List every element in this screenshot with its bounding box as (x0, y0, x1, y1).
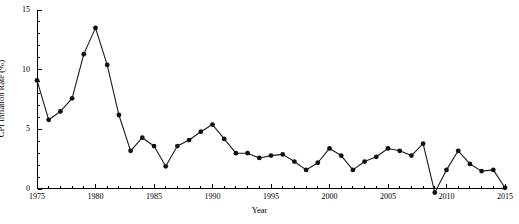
data-point (269, 153, 274, 158)
data-point (397, 148, 402, 153)
y-axis-ticks (38, 10, 43, 189)
data-point (81, 52, 86, 57)
data-point (409, 153, 414, 158)
x-axis-ticks (37, 184, 505, 189)
data-point (245, 151, 250, 156)
x-axis-tick-label: 1980 (76, 192, 116, 201)
data-point (456, 148, 461, 153)
data-series-line (37, 28, 505, 193)
y-axis-tick-label: 10 (4, 66, 30, 74)
data-point (315, 160, 320, 165)
x-axis-title: Year (0, 205, 519, 215)
data-point (362, 159, 367, 164)
x-axis-tick-label: 2005 (368, 192, 408, 201)
data-point (292, 159, 297, 164)
data-point (175, 144, 180, 149)
data-point-markers (35, 26, 508, 195)
data-point (421, 141, 426, 146)
data-point (70, 96, 75, 101)
data-point (374, 154, 379, 159)
data-point (444, 168, 449, 173)
data-point (58, 109, 63, 114)
data-point (304, 168, 309, 173)
data-point (386, 146, 391, 151)
data-point (503, 185, 508, 190)
data-point (280, 152, 285, 157)
x-axis-tick-label: 2015 (485, 192, 519, 201)
data-point (35, 78, 40, 83)
data-point (140, 135, 145, 140)
data-point (257, 156, 262, 161)
data-point (327, 146, 332, 151)
x-axis-tick-label: 1995 (251, 192, 291, 201)
data-point (222, 136, 227, 141)
data-point (128, 148, 133, 153)
x-axis-tick-label: 1990 (193, 192, 233, 201)
data-point (351, 168, 356, 173)
data-point (117, 113, 122, 118)
x-axis-tick-label: 2010 (427, 192, 467, 201)
data-point (234, 151, 239, 156)
y-axis-tick-label: 15 (4, 6, 30, 14)
data-point (46, 117, 51, 122)
y-axis-tick-label: 5 (4, 125, 30, 133)
data-point (163, 164, 168, 169)
data-point (198, 129, 203, 134)
x-axis-title-text: Year (252, 205, 268, 215)
data-point (93, 26, 98, 31)
x-axis-tick-label: 1975 (17, 192, 57, 201)
x-axis-tick-label: 2000 (310, 192, 350, 201)
data-point (187, 138, 192, 143)
data-point (432, 190, 437, 195)
axis-lines (37, 10, 505, 189)
data-point (152, 144, 157, 149)
data-point (339, 153, 344, 158)
data-point (105, 62, 110, 67)
data-point (491, 168, 496, 173)
chart-figure: CPI Inflation Rate (%) 051015 1975198019… (0, 0, 519, 224)
data-point (468, 162, 473, 167)
data-point (210, 122, 215, 127)
plot-area (37, 10, 505, 189)
data-point (479, 169, 484, 174)
chart-svg (37, 10, 505, 189)
x-axis-tick-label: 1985 (134, 192, 174, 201)
